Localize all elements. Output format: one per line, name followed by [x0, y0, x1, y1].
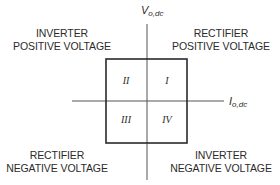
quadrant-numeral-I: I — [147, 75, 187, 86]
quadrant-I-mode: RECTIFIER — [165, 27, 277, 40]
quadrant-IV-label: INVERTER NEGATIVE VOLTAGE — [165, 149, 277, 175]
vertical-axis-label: Vo,dc — [141, 4, 163, 18]
quadrant-II-mode: INVERTER — [6, 27, 118, 40]
quadrant-numeral-III: III — [106, 114, 146, 125]
horizontal-axis-label: Io,dc — [229, 95, 247, 109]
quadrant-III-polarity: NEGATIVE VOLTAGE — [1, 162, 113, 175]
vertical-axis-subscript: o,dc — [148, 9, 163, 18]
quadrant-II-polarity: POSITIVE VOLTAGE — [6, 40, 118, 53]
quadrant-IV-polarity: NEGATIVE VOLTAGE — [165, 162, 277, 175]
quadrant-III-label: RECTIFIER NEGATIVE VOLTAGE — [1, 149, 113, 175]
quadrant-IV-mode: INVERTER — [165, 149, 277, 162]
horizontal-axis-subscript: o,dc — [232, 100, 247, 109]
quadrant-II-label: INVERTER POSITIVE VOLTAGE — [6, 27, 118, 53]
quadrant-I-polarity: POSITIVE VOLTAGE — [165, 40, 277, 53]
quadrant-numeral-II: II — [106, 75, 146, 86]
quadrant-numeral-IV: IV — [147, 114, 187, 125]
quadrant-I-label: RECTIFIER POSITIVE VOLTAGE — [165, 27, 277, 53]
quadrant-III-mode: RECTIFIER — [1, 149, 113, 162]
